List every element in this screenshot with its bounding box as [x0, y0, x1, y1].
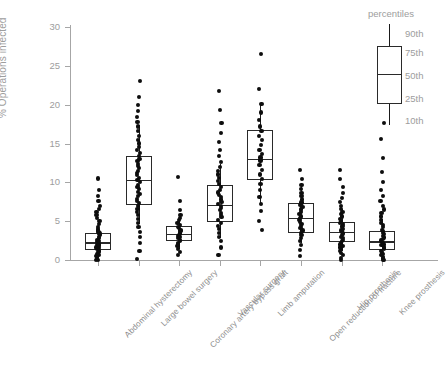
data-point — [217, 154, 221, 158]
data-point — [136, 103, 140, 107]
data-point — [138, 235, 142, 239]
data-point — [382, 121, 386, 125]
legend-label-90th: 90th — [405, 28, 424, 39]
y-tick-label: 20 — [36, 100, 60, 109]
data-point — [136, 225, 140, 229]
data-point — [257, 219, 261, 223]
data-point — [138, 79, 142, 83]
data-point — [218, 108, 222, 112]
data-point — [217, 140, 221, 144]
data-point — [340, 196, 344, 200]
data-point — [380, 170, 384, 174]
data-point — [259, 129, 263, 133]
data-point — [136, 129, 140, 133]
data-point — [259, 202, 263, 206]
data-point — [135, 120, 139, 124]
data-point — [381, 194, 385, 198]
data-point — [96, 194, 100, 198]
data-point — [338, 168, 342, 172]
legend-title: percentiles — [368, 8, 414, 19]
data-point — [299, 243, 303, 247]
legend-label-75th: 75th — [405, 47, 424, 58]
data-point — [98, 204, 102, 208]
data-point — [97, 188, 101, 192]
data-point — [96, 176, 100, 180]
data-point — [299, 183, 303, 187]
data-point — [382, 207, 386, 211]
data-point — [260, 228, 264, 232]
data-point — [218, 148, 222, 152]
x-tick — [260, 261, 261, 266]
data-point — [178, 199, 182, 203]
data-point — [258, 124, 262, 128]
data-point — [379, 137, 383, 141]
data-point — [260, 177, 264, 181]
y-axis-line — [70, 25, 71, 261]
data-point — [260, 168, 264, 172]
legend-label-10th: 10th — [405, 115, 424, 126]
data-point — [339, 204, 343, 208]
data-point — [259, 143, 263, 147]
data-point — [96, 199, 100, 203]
data-point — [258, 188, 262, 192]
legend-lower-whisker — [389, 104, 390, 125]
data-point — [298, 168, 302, 172]
data-point — [381, 204, 385, 208]
data-point — [381, 156, 385, 160]
y-tick-label: 25 — [36, 61, 60, 70]
data-point — [299, 191, 303, 195]
y-tick-label: 10 — [36, 177, 60, 186]
data-point — [219, 239, 223, 243]
y-tick — [65, 260, 70, 261]
y-tick-label: 15 — [36, 139, 60, 148]
x-axis-label: Knee prosthesis — [398, 268, 447, 317]
data-point — [138, 241, 142, 245]
y-tick — [65, 27, 70, 28]
data-point — [138, 151, 142, 155]
data-point — [137, 141, 141, 145]
y-tick-label: 30 — [36, 22, 60, 31]
data-point — [298, 254, 302, 258]
data-point — [259, 102, 263, 106]
data-point — [137, 249, 141, 253]
data-point — [178, 213, 182, 217]
data-point — [216, 253, 220, 257]
x-tick — [220, 261, 221, 266]
y-tick — [65, 105, 70, 106]
data-point — [136, 124, 140, 128]
legend-upper-whisker — [389, 24, 390, 46]
data-point — [381, 180, 385, 184]
data-point — [219, 131, 223, 135]
legend-label-50th: 50th — [405, 70, 424, 81]
data-point — [341, 191, 345, 195]
y-tick — [65, 66, 70, 67]
data-point — [257, 195, 261, 199]
data-point — [138, 230, 142, 234]
data-point — [259, 209, 263, 213]
y-tick — [65, 221, 70, 222]
data-point — [176, 175, 180, 179]
data-point — [217, 231, 221, 235]
data-point — [300, 177, 304, 181]
data-point — [338, 177, 342, 181]
x-axis-label: Hip prosthesis — [355, 268, 399, 312]
x-tick — [139, 261, 140, 266]
data-point — [258, 172, 262, 176]
data-point — [257, 87, 261, 91]
data-point — [258, 182, 262, 186]
data-point — [257, 148, 261, 152]
legend-median-line — [377, 74, 402, 75]
data-point — [136, 217, 140, 221]
data-point — [259, 110, 263, 114]
data-point — [135, 115, 139, 119]
data-point — [219, 245, 223, 249]
data-point — [217, 235, 221, 239]
y-tick-label: 5 — [36, 216, 60, 225]
legend-label-25th: 25th — [405, 93, 424, 104]
x-tick — [179, 261, 180, 266]
data-point — [378, 199, 382, 203]
data-point — [218, 165, 222, 169]
data-point — [257, 163, 261, 167]
data-point — [379, 188, 383, 192]
data-point — [136, 109, 140, 113]
